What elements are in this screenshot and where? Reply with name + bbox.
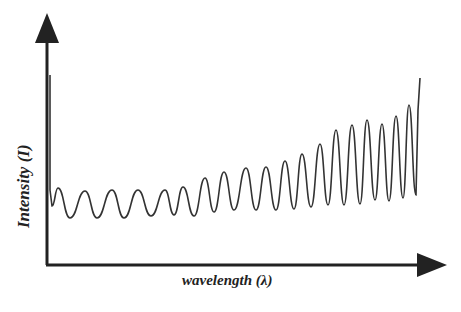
spectrum-chart <box>0 0 461 312</box>
x-axis-label: wavelength (λ) <box>182 272 272 289</box>
intensity-curve <box>50 75 420 218</box>
y-axis-label: Intensity (I) <box>14 144 34 228</box>
